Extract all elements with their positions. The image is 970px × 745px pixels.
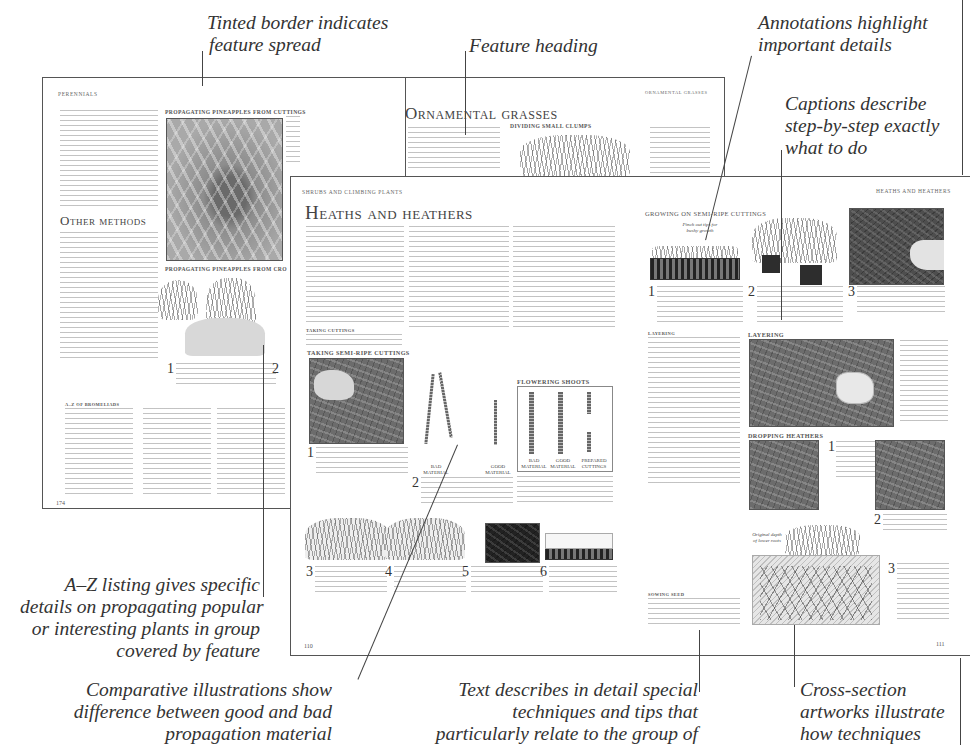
step-number: 1 <box>648 285 655 299</box>
rock-in-photo <box>836 372 874 404</box>
section-heading-flowering-shoots: Flowering shoots <box>517 378 590 385</box>
seed-tray-photo <box>485 523 540 563</box>
plant-pot <box>762 255 780 273</box>
cutting-step-4-illustration <box>385 518 465 560</box>
body-text-block <box>60 110 158 210</box>
heather-top-growth <box>785 525 860 555</box>
annotation-feature-heading: Feature heading <box>469 35 598 57</box>
page-number: 110 <box>304 643 313 649</box>
shoot-sprig <box>587 392 591 414</box>
step-caption <box>757 286 843 322</box>
a-z-column-1 <box>65 408 133 494</box>
step-caption <box>176 363 276 385</box>
shoot-sprig <box>558 392 563 454</box>
step-caption <box>857 286 945 314</box>
propagator-lid <box>545 533 613 549</box>
feature-title-ornamental-grasses: Ornamental grasses <box>405 104 558 124</box>
a-z-column-2 <box>143 408 211 494</box>
feature-title-heaths: Heaths and heathers <box>305 202 473 224</box>
dropping-step-caption <box>836 441 878 481</box>
photo-heading-pineapples-cuttings: Propagating pineapples from cuttings <box>165 109 306 115</box>
leader-line <box>263 345 264 597</box>
shoot-sprig <box>529 392 534 454</box>
leader-line <box>962 0 963 175</box>
step-caption <box>471 566 543 596</box>
propagator-tray <box>545 548 613 560</box>
shoot-sprig <box>587 432 591 452</box>
annotation-tinted-border: Tinted border indicates feature spread <box>207 12 388 56</box>
subhead-taking-cuttings: Taking cuttings <box>306 328 355 333</box>
label-good-material: Good material <box>550 458 576 470</box>
step-caption <box>657 286 743 322</box>
annotation-original-depth: Original depth of lower roots <box>752 532 782 544</box>
step-number: 3 <box>888 562 895 576</box>
step-number: 3 <box>848 285 855 299</box>
step-number: 4 <box>385 565 392 579</box>
page-number: 111 <box>936 641 945 647</box>
annotation-text-describes: Text describes in detail special techniq… <box>420 679 698 745</box>
step-caption <box>394 566 466 596</box>
section-heading-dividing-clumps: Dividing small clumps <box>510 123 591 129</box>
step-number: 1 <box>307 446 314 460</box>
root-system-illustration <box>760 566 872 620</box>
section-heading-layering: Layering <box>748 331 784 338</box>
photo-heading-pineapples-crowns: Propagating pineapples from cro <box>165 266 287 272</box>
caption-text-block <box>650 127 710 173</box>
step-number: 2 <box>272 362 279 376</box>
step-number: 2 <box>412 476 419 490</box>
body-text-col-2 <box>409 226 509 330</box>
grass-clump-illustration <box>520 135 630 177</box>
step-number: 2 <box>748 285 755 299</box>
hand-photo-detail <box>910 240 944 270</box>
running-head-perennials: Perennials <box>58 91 98 97</box>
step-number: 2 <box>874 513 881 527</box>
step-caption <box>315 566 387 596</box>
leader-line <box>465 51 466 135</box>
step-number: 6 <box>540 565 547 579</box>
hands-holding-pineapple <box>185 318 265 356</box>
running-head-ornamental-grasses: Ornamental grasses <box>645 90 708 95</box>
section-heading-other-methods: Other methods <box>60 213 146 229</box>
a-z-heading: A–Z of bromeliads <box>65 402 119 407</box>
annotation-pinch-out-tips: Pinch out tips for bushy growth <box>680 222 720 234</box>
running-head-shrubs: Shrubs and climbing plants <box>302 189 403 195</box>
body-text-col-1 <box>306 226 404 322</box>
subhead-layering: Layering <box>648 331 675 336</box>
leader-line <box>202 51 203 86</box>
cross-section-caption <box>897 563 949 623</box>
body-text-block <box>306 334 402 348</box>
annotation-comparative-illustrations: Comparative illustrations show differenc… <box>70 679 332 745</box>
dropping-photo-2 <box>875 440 945 510</box>
body-text-col-3 <box>513 226 615 330</box>
step-caption <box>549 566 617 596</box>
hand-photo-detail <box>314 370 354 400</box>
pineapple-photo <box>166 118 283 261</box>
layering-body-text <box>648 337 740 485</box>
step-caption <box>316 447 408 473</box>
body-text-block <box>408 127 500 172</box>
step-number: 1 <box>828 440 835 454</box>
section-heading-growing-on: Growing on semi-ripe cuttings <box>645 210 766 217</box>
good-material-sprig <box>494 400 497 445</box>
label-good-material: Good material <box>482 464 514 476</box>
annotation-captions-describe: Captions describe step-by-step exactly w… <box>785 93 939 159</box>
leader-line <box>699 630 700 692</box>
dropping-step-caption <box>883 514 947 532</box>
body-text-block <box>60 232 158 362</box>
label-prepared-cuttings: Prepared cuttings <box>578 458 610 470</box>
subhead-sowing-seed: Sowing seed <box>648 592 684 597</box>
leader-line <box>781 150 782 320</box>
cuttings-tray <box>650 258 740 280</box>
annotation-highlight-details: Annotations highlight important details <box>758 12 928 56</box>
running-head-heaths: Heaths and heathers <box>876 188 951 194</box>
caption-text-block <box>517 476 613 502</box>
layering-caption <box>900 340 948 425</box>
page-number: 174 <box>56 500 65 506</box>
photo-caption <box>286 116 300 162</box>
step-number: 3 <box>306 565 313 579</box>
annotation-cross-section: Cross-section artworks illustrate how te… <box>800 679 945 745</box>
pineapple-crown-illustration <box>158 280 198 320</box>
annotation-a-z-listing: A–Z listing gives specific details on pr… <box>20 574 260 662</box>
leader-line <box>794 625 795 687</box>
leader-line <box>960 658 961 745</box>
